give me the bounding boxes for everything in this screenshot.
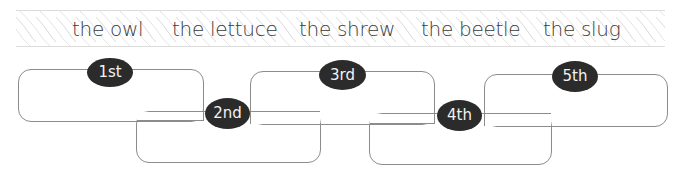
word-beetle[interactable]: the beetle [421, 18, 520, 40]
line-fix [136, 121, 137, 122]
ordinal-label: 3rd [330, 68, 355, 83]
box-4-top-edge [485, 113, 551, 114]
ordinal-badge-5th: 5th [552, 61, 598, 92]
overlap-mask [485, 114, 551, 126]
ordinal-badge-2nd: 2nd [205, 98, 250, 129]
ordinal-label: 1st [98, 65, 121, 80]
ordinal-badge-4th: 4th [437, 100, 482, 131]
ordinal-badge-3rd: 3rd [319, 60, 366, 90]
ordinal-label: 4th [447, 108, 472, 123]
word-bank-banner: the owl the lettuce the shrew the beetle… [16, 10, 665, 47]
box-5-left-edge [484, 113, 485, 126]
overlap-mask [251, 112, 320, 124]
word-shrew[interactable]: the shrew [299, 18, 395, 40]
box-3-left-edge [250, 111, 251, 124]
box-1-bottom-edge [137, 120, 203, 121]
word-owl[interactable]: the owl [72, 18, 143, 40]
box-1-right-edge [203, 110, 204, 121]
ordinal-label: 5th [563, 69, 588, 84]
ordinal-label: 2nd [213, 106, 242, 121]
ordinal-badge-1st: 1st [87, 58, 133, 87]
box-3-right-edge [434, 113, 435, 124]
word-slug[interactable]: the slug [543, 18, 620, 40]
word-lettuce[interactable]: the lettuce [172, 18, 277, 40]
box-2-top-edge [251, 111, 320, 112]
box-3-bottom-edge [370, 123, 434, 124]
